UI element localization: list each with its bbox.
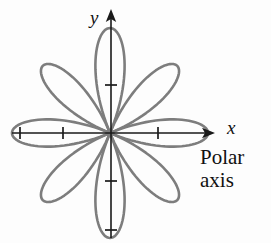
polar-axis-caption-line1: Polar — [200, 146, 244, 169]
rose-petal — [95, 133, 124, 238]
x-axis-label: x — [227, 118, 235, 137]
polar-axis-caption-line2: axis — [200, 169, 244, 192]
polar-rose-figure: y x Polar axis — [0, 0, 271, 243]
y-axis-label: y — [90, 8, 98, 27]
polar-axis-caption: Polar axis — [200, 146, 244, 191]
rose-petal — [95, 28, 124, 133]
